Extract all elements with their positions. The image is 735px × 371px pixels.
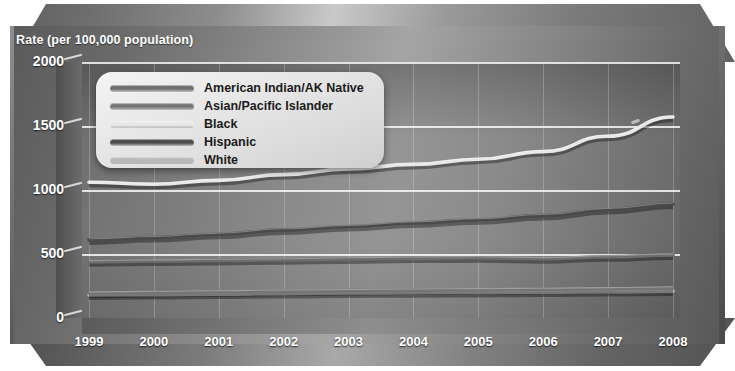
frame-right-edge (719, 26, 725, 344)
legend-swatch-american-indian-ak-native (110, 85, 194, 92)
legend-label-american-indian-ak-native: American Indian/AK Native (204, 81, 364, 95)
legend: American Indian/AK Native Asian/Pacific … (96, 72, 384, 168)
x-tick-2004: 2004 (383, 334, 443, 349)
y-axis-title: Rate (per 100,000 population) (16, 33, 193, 47)
legend-swatch-hispanic (110, 139, 194, 146)
y-tick-2000: 2000 (6, 53, 64, 69)
legend-swatch-white (110, 157, 194, 164)
x-tick-1999: 1999 (59, 334, 119, 349)
plot-depth-floor (82, 318, 680, 334)
y-tick-500: 500 (6, 245, 64, 261)
y-tick-1000: 1000 (6, 181, 64, 197)
x-tick-2007: 2007 (578, 334, 638, 349)
legend-label-hispanic: Hispanic (204, 135, 256, 149)
legend-label-white: White (204, 153, 238, 167)
x-tick-2005: 2005 (448, 334, 508, 349)
x-tick-2003: 2003 (319, 334, 379, 349)
x-tick-2002: 2002 (254, 334, 314, 349)
y-tick-1500: 1500 (6, 117, 64, 133)
legend-label-black: Black (204, 117, 237, 131)
chart-screenshot: Rate (per 100,000 population) 2000150010… (0, 0, 735, 371)
y-tick-0: 0 (6, 309, 64, 325)
x-tick-2008: 2008 (643, 334, 703, 349)
series-highlight-hispanic (89, 203, 673, 239)
x-tick-2000: 2000 (124, 334, 184, 349)
legend-swatch-asian-pacific-islander (110, 103, 194, 110)
legend-label-asian-pacific-islander: Asian/Pacific Islander (204, 99, 333, 113)
x-tick-2001: 2001 (189, 334, 249, 349)
legend-swatch-black (110, 121, 194, 128)
x-tick-2006: 2006 (513, 334, 573, 349)
